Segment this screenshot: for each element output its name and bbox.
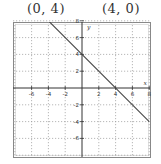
- y-axis-label: y: [86, 23, 91, 31]
- y-tick-label: -6: [74, 135, 80, 141]
- x-tick-label: -2: [62, 91, 67, 97]
- y-tick-label: -4: [74, 119, 80, 125]
- x-tick-label: 4: [114, 91, 118, 97]
- x-tick-label: 6: [131, 91, 135, 97]
- x-tick-label: -6: [29, 91, 35, 97]
- x-tick-label: -4: [46, 91, 52, 97]
- y-tick-label: 2: [76, 68, 80, 74]
- coordinate-plane: -6-4-22468-6-4-22468xy: [0, 0, 161, 164]
- y-tick-label: 4: [76, 51, 80, 57]
- x-tick-label: 8: [147, 91, 151, 97]
- y-tick-label: 8: [76, 18, 80, 24]
- y-tick-label: 6: [76, 35, 80, 41]
- x-tick-label: 2: [97, 91, 101, 97]
- y-tick-label: -2: [74, 102, 79, 108]
